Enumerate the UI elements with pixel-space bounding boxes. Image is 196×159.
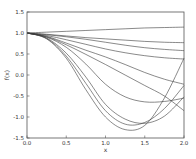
series-line-5	[27, 33, 184, 84]
series-line-6	[27, 33, 184, 111]
y-tick-label: 1.0	[15, 30, 24, 36]
series-line-1	[27, 27, 184, 33]
x-tick-label: 1.5	[140, 140, 149, 146]
plot-frame	[27, 12, 184, 138]
curves	[27, 27, 184, 130]
x-tick-label: 2.0	[180, 140, 189, 146]
x-axis-label: x	[104, 146, 108, 153]
y-tick-label: 0.5	[15, 51, 24, 57]
y-tick-label: 1.5	[15, 9, 24, 15]
line-chart: 1.51.00.50.0-0.5-1.0-1.5 0.00.51.01.52.0…	[0, 0, 196, 159]
y-tick-label: -0.5	[13, 93, 24, 99]
y-axis-label: f(x)	[3, 70, 10, 80]
series-line-10	[27, 33, 184, 130]
y-tick-label: 0.0	[15, 72, 24, 78]
series-line-7	[27, 33, 184, 102]
series-line-9	[27, 33, 184, 125]
series-line-4	[27, 33, 184, 59]
x-tick-label: 0.5	[62, 140, 71, 146]
y-tick-label: -1.0	[13, 114, 24, 120]
x-axis-ticks: 0.00.51.01.52.0	[23, 136, 189, 147]
x-tick-label: 0.0	[23, 140, 32, 146]
